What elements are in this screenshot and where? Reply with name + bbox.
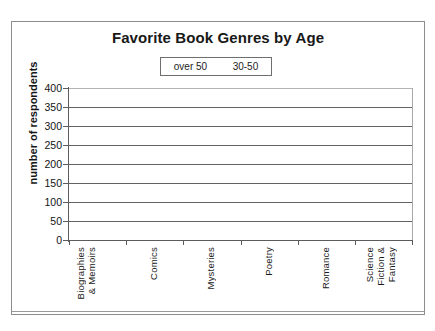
y-tick-mark-150 bbox=[63, 183, 68, 184]
gridline-250 bbox=[69, 145, 413, 146]
x-category-line: Fantasy bbox=[386, 247, 397, 282]
x-category-line: Romance bbox=[320, 247, 331, 289]
gridline-200 bbox=[69, 164, 413, 165]
gridline-400 bbox=[69, 88, 413, 89]
y-tick-mark-250 bbox=[63, 145, 68, 146]
y-tick-mark-0 bbox=[63, 240, 68, 241]
gridline-300 bbox=[69, 126, 413, 127]
y-tick-label-0: 0 bbox=[32, 235, 62, 246]
x-category-label-poetry: Poetry bbox=[263, 247, 274, 311]
x-category-label-romance: Romance bbox=[320, 247, 331, 311]
x-category-line: Mysteries bbox=[205, 247, 216, 289]
y-tick-mark-300 bbox=[63, 126, 68, 127]
plot-right-edge bbox=[412, 88, 413, 240]
y-tick-mark-400 bbox=[63, 88, 68, 89]
x-category-line: Biographies bbox=[75, 247, 86, 299]
x-tick-mark-6 bbox=[412, 240, 413, 245]
plot-area bbox=[69, 88, 413, 240]
x-tick-mark-4 bbox=[298, 240, 299, 245]
x-category-label-mysteries: Mysteries bbox=[205, 247, 216, 311]
y-tick-label-150: 150 bbox=[32, 178, 62, 189]
x-category-label-science-fiction-fantasy: Science Fiction & Fantasy bbox=[364, 247, 397, 311]
chart-legend: over 50 30-50 bbox=[160, 57, 272, 76]
y-tick-label-100: 100 bbox=[32, 197, 62, 208]
x-category-line: & Memoirs bbox=[86, 247, 97, 294]
chart-title: Favorite Book Genres by Age bbox=[11, 29, 425, 46]
y-tick-label-50: 50 bbox=[32, 216, 62, 227]
x-category-line: Fiction & bbox=[375, 247, 386, 286]
y-tick-mark-50 bbox=[63, 221, 68, 222]
y-axis-line bbox=[68, 87, 69, 242]
gridline-50 bbox=[69, 221, 413, 222]
x-category-line: Science bbox=[364, 247, 375, 282]
legend-entry-over-50: over 50 bbox=[174, 61, 207, 72]
x-category-line: Poetry bbox=[263, 247, 274, 276]
gridline-350 bbox=[69, 107, 413, 108]
x-tick-mark-0 bbox=[69, 240, 70, 245]
gridline-100 bbox=[69, 202, 413, 203]
y-tick-mark-100 bbox=[63, 202, 68, 203]
y-tick-mark-350 bbox=[63, 107, 68, 108]
y-tick-label-400: 400 bbox=[32, 83, 62, 94]
x-tick-mark-1 bbox=[126, 240, 127, 245]
x-tick-mark-5 bbox=[355, 240, 356, 245]
x-category-label-comics: Comics bbox=[148, 247, 159, 311]
y-tick-label-250: 250 bbox=[32, 140, 62, 151]
y-tick-label-200: 200 bbox=[32, 159, 62, 170]
x-tick-mark-2 bbox=[183, 240, 184, 245]
y-tick-label-350: 350 bbox=[32, 102, 62, 113]
gridline-150 bbox=[69, 183, 413, 184]
y-tick-label-300: 300 bbox=[32, 121, 62, 132]
y-tick-mark-200 bbox=[63, 164, 68, 165]
x-tick-mark-3 bbox=[241, 240, 242, 245]
legend-entry-30-50: 30-50 bbox=[233, 61, 259, 72]
x-category-label-biographies-memoirs: Biographies & Memoirs bbox=[75, 247, 97, 311]
x-category-line: Comics bbox=[148, 247, 159, 280]
inner-bottom-rule bbox=[12, 311, 424, 312]
